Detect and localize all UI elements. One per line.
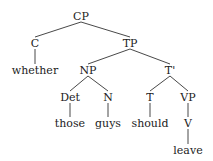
edge-tp-np <box>88 49 130 64</box>
edge-tbar-t <box>150 76 170 91</box>
node-whether: whether <box>12 65 58 76</box>
node-n: N <box>103 92 113 103</box>
node-should: should <box>132 118 169 129</box>
tree-edges <box>0 0 213 161</box>
edge-tp-tbar <box>130 49 170 64</box>
node-t: T <box>146 92 153 103</box>
node-guys: guys <box>95 118 121 129</box>
edge-cp-c <box>35 22 81 37</box>
edge-np-det <box>70 76 88 91</box>
node-tbar: T' <box>165 65 175 76</box>
edge-tbar-vp <box>170 76 188 91</box>
node-c: C <box>31 38 39 49</box>
node-those: those <box>55 118 85 129</box>
node-cp: CP <box>73 11 89 22</box>
node-tp: TP <box>123 38 138 49</box>
node-det: Det <box>60 92 80 103</box>
node-leave: leave <box>173 145 202 156</box>
node-vp: VP <box>180 92 195 103</box>
node-v: V <box>184 118 192 129</box>
edge-cp-tp <box>81 22 130 37</box>
edge-np-n <box>88 76 108 91</box>
syntax-tree: CPCTPwhetherNPT'DetNTVPthoseguysshouldVl… <box>0 0 213 161</box>
node-np: NP <box>79 65 96 76</box>
